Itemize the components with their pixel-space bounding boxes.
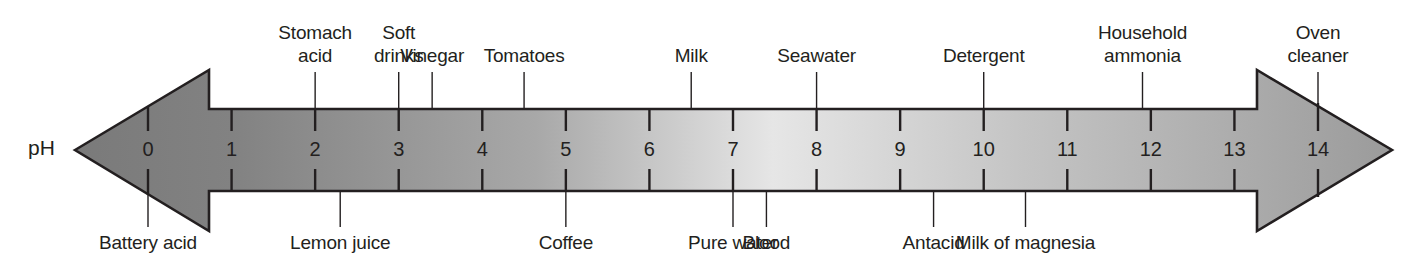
label-oven-cleaner: Ovencleaner: [1288, 21, 1349, 67]
tick-label-3: 3: [393, 137, 404, 161]
label-milk: Milk: [675, 44, 708, 67]
tick-label-0: 0: [142, 137, 153, 161]
tick-label-14: 14: [1307, 137, 1329, 161]
label-blood: Blood: [743, 231, 791, 254]
label-milk-of-magnesia: Milk of magnesia: [956, 231, 1095, 254]
label-household-ammonia: Householdammonia: [1098, 21, 1187, 67]
label-stomach-acid: Stomachacid: [278, 21, 352, 67]
tick-label-9: 9: [895, 137, 906, 161]
ph-scale-diagram: pH 01234567891011121314 StomachacidSoftd…: [0, 0, 1423, 267]
tick-label-8: 8: [811, 137, 822, 161]
label-detergent: Detergent: [943, 44, 1025, 67]
tick-label-7: 7: [727, 137, 738, 161]
tick-label-4: 4: [477, 137, 488, 161]
label-seawater: Seawater: [777, 44, 856, 67]
label-tomatoes: Tomatoes: [484, 44, 565, 67]
tick-label-6: 6: [644, 137, 655, 161]
ph-axis-label: pH: [28, 136, 55, 160]
tick-label-1: 1: [226, 137, 237, 161]
tick-label-12: 12: [1140, 137, 1162, 161]
tick-label-11: 11: [1057, 137, 1078, 161]
label-vinegar: Vinegar: [400, 44, 464, 67]
double-arrow-scale: [0, 0, 1423, 267]
tick-label-2: 2: [310, 137, 321, 161]
tick-label-10: 10: [973, 137, 995, 161]
label-battery-acid: Battery acid: [99, 231, 197, 254]
tick-label-5: 5: [560, 137, 571, 161]
label-lemon-juice: Lemon juice: [290, 231, 390, 254]
tick-label-13: 13: [1223, 137, 1245, 161]
label-coffee: Coffee: [539, 231, 593, 254]
